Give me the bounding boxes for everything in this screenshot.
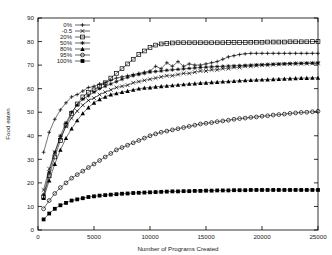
- y-tick-label: 40: [27, 132, 34, 139]
- y-tick-label: 0: [31, 226, 35, 233]
- chart-canvas: 0102030405060708090 05000100001500020000…: [0, 0, 332, 255]
- y-tick-label: 70: [27, 61, 34, 68]
- x-tick-label: 10000: [141, 233, 159, 240]
- y-tick-label: 80: [27, 38, 34, 45]
- y-tick-label: 10: [27, 203, 34, 210]
- y-tick-label: 60: [27, 85, 34, 92]
- x-tick-label: 25000: [309, 233, 327, 240]
- x-axis-title: Number of Programs Created: [137, 245, 219, 252]
- x-tick-label: 20000: [253, 233, 271, 240]
- chart-background: [0, 0, 332, 255]
- y-tick-label: 20: [27, 179, 34, 186]
- chart-figure: 0102030405060708090 05000100001500020000…: [0, 0, 332, 255]
- y-tick-label: 50: [27, 108, 34, 115]
- y-tick-label: 90: [27, 14, 34, 21]
- y-tick-label: 30: [27, 156, 34, 163]
- y-axis-title: Food eaten: [4, 108, 11, 140]
- x-tick-label: 15000: [197, 233, 215, 240]
- legend-label-100: 100%: [57, 58, 73, 64]
- x-tick-label: 5000: [87, 233, 101, 240]
- x-tick-label: 0: [36, 233, 40, 240]
